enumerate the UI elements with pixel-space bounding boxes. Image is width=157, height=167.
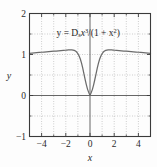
x-tick-label: 4 <box>136 139 141 149</box>
x-tick-label: 0 <box>88 139 93 149</box>
equation-tail: ) <box>117 28 120 39</box>
equation-middle: /(1 + x <box>88 28 114 39</box>
y-tick-labels: −1012 <box>16 9 26 142</box>
equation-annotation: y = Dsx3/(1 + x2) <box>57 28 120 40</box>
x-tick-label: 2 <box>112 139 117 149</box>
x-axis-label: x <box>87 152 93 163</box>
equation-lead: y = D <box>57 28 79 38</box>
chart-figure: −4−2024 −1012 x y y = Dsx3/(1 + x2) <box>0 0 157 167</box>
plot-svg: −4−2024 −1012 x y y = Dsx3/(1 + x2) <box>0 0 157 167</box>
x-tick-labels: −4−2024 <box>37 139 141 149</box>
x-tick-label: −4 <box>37 139 47 149</box>
y-tick-label: 1 <box>21 50 26 60</box>
x-tick-label: −2 <box>61 139 71 149</box>
y-axis-label: y <box>6 70 12 81</box>
y-tick-label: 0 <box>21 91 26 101</box>
y-tick-label: −1 <box>16 132 26 142</box>
y-tick-label: 2 <box>21 9 26 19</box>
